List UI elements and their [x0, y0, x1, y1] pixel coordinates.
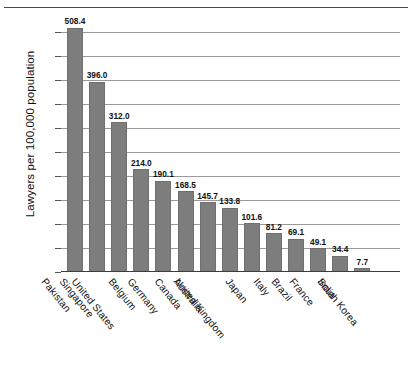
bar[interactable] [200, 202, 216, 272]
bar-slot[interactable]: 145.7 [197, 20, 219, 272]
bar-value-label: 7.7 [343, 257, 381, 267]
bar[interactable] [67, 28, 83, 272]
bar[interactable] [133, 169, 149, 272]
bar[interactable] [155, 181, 171, 272]
bar[interactable] [266, 233, 282, 272]
y-axis-title: Lawyers per 100,000 population [24, 29, 36, 239]
x-axis-category-labels: PakistanSingaporeUnited StatesBelgiumGer… [61, 276, 406, 366]
x-axis-label: South Korea [315, 276, 360, 328]
bar[interactable] [178, 191, 194, 272]
bars-group: 508.4396.0312.0214.0190.1168.5145.7133.8… [61, 20, 400, 272]
bar-slot[interactable]: 101.6 [241, 20, 263, 272]
x-axis-baseline [61, 271, 400, 272]
bar-slot[interactable]: 133.8 [219, 20, 241, 272]
bar-slot[interactable]: 34.4 [329, 20, 351, 272]
bar-chart: Lawyers per 100,000 population 050100150… [0, 0, 418, 367]
top-divider-rule [4, 7, 408, 8]
x-axis-label: Japan [224, 276, 250, 305]
bar-slot[interactable]: 168.5 [175, 20, 197, 272]
plot-area: 050100150200250300350400450500 508.4396.… [61, 20, 400, 272]
bar-slot[interactable]: 190.1 [152, 20, 174, 272]
bar-slot[interactable]: 69.1 [285, 20, 307, 272]
bar-slot[interactable]: 396.0 [86, 20, 108, 272]
bar-slot[interactable]: 49.1 [307, 20, 329, 272]
x-axis-label: Italy [251, 276, 272, 298]
bar-slot[interactable]: 312.0 [108, 20, 130, 272]
bar-slot[interactable]: 214.0 [130, 20, 152, 272]
y-tick-mark [55, 272, 61, 273]
bar[interactable] [111, 122, 127, 272]
x-axis-label: United Kingdom [173, 276, 228, 340]
bar-slot[interactable]: 7.7 [351, 20, 373, 272]
bar-slot[interactable]: 508.4 [64, 20, 86, 272]
